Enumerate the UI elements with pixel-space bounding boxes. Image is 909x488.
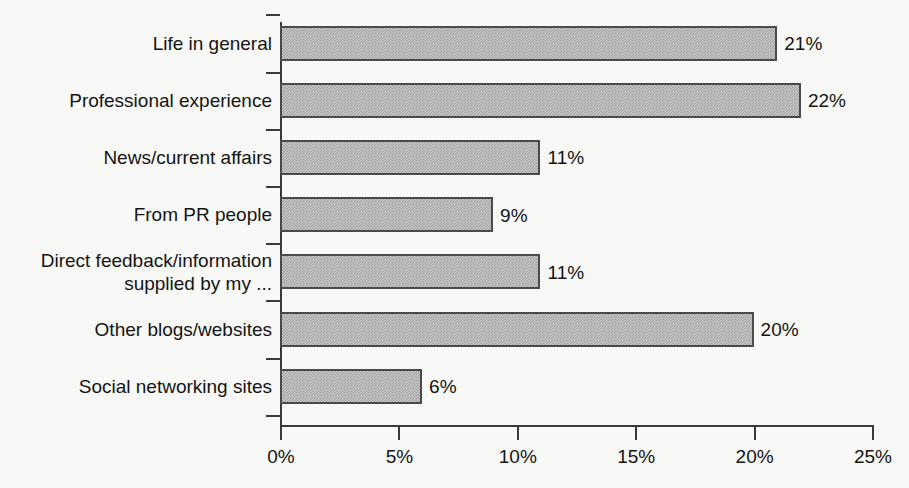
bar	[280, 369, 422, 404]
bar	[280, 140, 540, 175]
x-axis-tick	[517, 427, 519, 440]
x-axis-tick-label: 20%	[714, 447, 796, 466]
y-axis-tick	[266, 14, 280, 16]
bar	[280, 312, 754, 347]
bar-value-label: 9%	[500, 206, 527, 225]
bar	[280, 83, 801, 118]
bar-value-label: 22%	[808, 91, 846, 110]
category-label: Professional experience	[0, 89, 272, 112]
x-axis-tick	[872, 427, 874, 440]
bar	[280, 254, 540, 289]
bar-value-label: 11%	[547, 148, 584, 167]
bar-value-label: 20%	[761, 320, 799, 339]
bar	[280, 197, 493, 232]
x-axis-tick	[635, 427, 637, 440]
x-axis-tick	[280, 427, 282, 440]
y-axis-tick	[266, 243, 280, 245]
x-axis-tick-label: 0%	[240, 447, 322, 466]
category-label: Other blogs/websites	[0, 318, 272, 341]
x-axis-tick	[754, 427, 756, 440]
y-axis-tick	[266, 415, 280, 417]
y-axis-tick	[266, 72, 280, 74]
y-axis-tick	[266, 300, 280, 302]
bar-value-label: 21%	[784, 34, 822, 53]
x-axis-tick	[398, 427, 400, 440]
bar	[280, 26, 777, 61]
y-axis-tick	[266, 186, 280, 188]
x-axis-tick-label: 5%	[358, 447, 440, 466]
x-axis-tick-label: 15%	[595, 447, 677, 466]
x-axis-line	[280, 425, 874, 427]
category-label: From PR people	[0, 203, 272, 226]
bar-value-label: 6%	[429, 377, 456, 396]
x-axis-tick-label: 10%	[477, 447, 559, 466]
category-label: News/current affairs	[0, 146, 272, 169]
category-label: Direct feedback/information supplied by …	[0, 249, 272, 295]
horizontal-bar-chart: 21%Life in general22%Professional experi…	[0, 0, 909, 488]
y-axis-tick	[266, 129, 280, 131]
y-axis-tick	[266, 358, 280, 360]
bar-value-label: 11%	[547, 263, 584, 282]
category-label: Life in general	[0, 32, 272, 55]
category-label: Social networking sites	[0, 375, 272, 398]
x-axis-tick-label: 25%	[832, 447, 909, 466]
